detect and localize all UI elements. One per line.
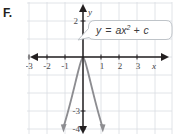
y-axis-label: y (87, 7, 92, 17)
x-axis-label: x (151, 61, 156, 71)
parabola-graph: -3 -2 -1 1 2 3 2 -3 -4 x y y=ax2+c (26, 0, 173, 136)
y-tick-label-neg4: -4 (73, 124, 81, 134)
y-axis-arrow-up (79, 4, 87, 12)
figure-container: F. (0, 0, 173, 136)
x-axis-arrow-right (161, 53, 169, 61)
equation-plus: + (133, 24, 139, 36)
y-axis-arrow-down (79, 126, 87, 134)
equation-callout: y=ax2+c (78, 21, 172, 41)
equation-exponent: 2 (125, 24, 130, 31)
exercise-label: F. (3, 6, 12, 20)
x-axis-arrow-left (30, 53, 38, 61)
curve-arrow-left (61, 124, 67, 133)
x-tick-label-neg2: -2 (43, 61, 51, 71)
x-tick-label-neg1: -1 (61, 61, 69, 71)
x-tick-label-3: 3 (136, 61, 141, 71)
equation-constant: c (144, 24, 150, 36)
equation-lhs: y (95, 24, 102, 36)
x-tick-label-neg3: -3 (26, 61, 33, 71)
curve-arrow-right (100, 124, 106, 133)
y-tick-label-2: 2 (74, 16, 79, 26)
equation-equals: = (105, 24, 111, 36)
y-tick-label-neg3: -3 (73, 106, 81, 116)
x-tick-label-1: 1 (100, 61, 105, 71)
graph-svg: -3 -2 -1 1 2 3 2 -3 -4 x y y=ax2+c (26, 0, 173, 136)
x-tick-label-2: 2 (118, 61, 123, 71)
